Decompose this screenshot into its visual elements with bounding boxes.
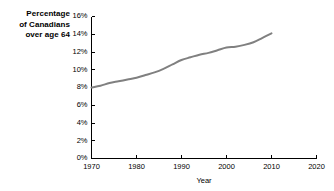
y-tick-label: 4%: [77, 118, 88, 127]
y-tick-label: 6%: [77, 100, 88, 109]
y-tick-label: 2%: [77, 136, 88, 145]
y-tick-label: 8%: [77, 82, 88, 91]
data-series-line: [92, 33, 272, 87]
line-chart-plot: 0%2%4%6%8%10%12%14%16% 19701980199020002…: [0, 0, 334, 191]
chart-figure: Percentage of Canadians over age 64 0%2%…: [0, 0, 334, 191]
x-tick-label: 1980: [128, 162, 145, 171]
x-tick-label: 1990: [173, 162, 190, 171]
x-tick-label: 2010: [263, 162, 280, 171]
y-tick-label: 10%: [72, 65, 87, 74]
y-axis-tick-labels: 0%2%4%6%8%10%12%14%16%: [72, 11, 87, 162]
x-tick-label: 2000: [218, 162, 235, 171]
x-axis-label: Year: [196, 176, 212, 185]
y-tick-label: 14%: [72, 29, 87, 38]
x-axis-tick-labels: 197019801990200020102020: [83, 162, 325, 171]
y-tick-label: 16%: [72, 11, 87, 20]
x-tick-label: 1970: [83, 162, 100, 171]
x-axis-tick-marks: [92, 155, 317, 159]
y-tick-label: 12%: [72, 47, 87, 56]
x-tick-label: 2020: [308, 162, 325, 171]
